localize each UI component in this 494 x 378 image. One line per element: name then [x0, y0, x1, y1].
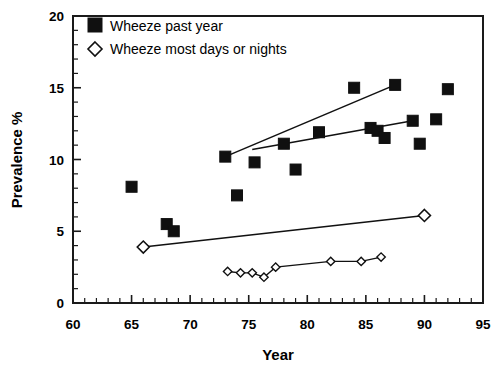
- data-point-square-3: [220, 151, 231, 162]
- x-tick-label-70: 70: [183, 317, 198, 332]
- chart-legend: Wheeze past year Wheeze most days or nig…: [88, 18, 287, 57]
- scatter-plot-svg: 606570758085909505101520 Wheeze past yea…: [0, 0, 494, 378]
- x-tick-label-80: 80: [300, 317, 315, 332]
- y-tick-label-10: 10: [49, 153, 64, 168]
- data-point-diamond-small-2: [248, 269, 256, 277]
- data-point-square-7: [290, 164, 301, 175]
- y-axis-label: Prevalence %: [8, 112, 25, 209]
- data-point-diamond-small-5: [327, 257, 335, 265]
- x-tick-label-95: 95: [475, 317, 491, 332]
- data-point-square-12: [379, 132, 390, 143]
- data-point-diamond-small-1: [236, 269, 244, 277]
- y-tick-label-5: 5: [56, 224, 64, 239]
- data-point-square-4: [232, 190, 243, 201]
- minor-tick-group: [73, 30, 471, 303]
- x-axis-label: Year: [262, 346, 294, 363]
- plot-frame: [73, 16, 483, 303]
- data-point-square-8: [314, 127, 325, 138]
- y-tick-label-15: 15: [49, 81, 65, 96]
- tick-label-group: 606570758085909505101520: [49, 9, 491, 332]
- x-tick-label-85: 85: [358, 317, 374, 332]
- data-point-square-2: [168, 226, 179, 237]
- data-point-square-14: [407, 115, 418, 126]
- data-point-diamond-small-0: [223, 267, 231, 275]
- data-point-square-15: [414, 138, 425, 149]
- x-tick-label-90: 90: [417, 317, 432, 332]
- y-tick-label-20: 20: [49, 9, 64, 24]
- chart-figure: 606570758085909505101520 Wheeze past yea…: [0, 0, 494, 378]
- data-point-square-6: [278, 138, 289, 149]
- data-point-square-13: [390, 79, 401, 90]
- y-tick-label-0: 0: [56, 296, 64, 311]
- legend-marker-filled-square: [88, 18, 102, 32]
- data-point-diamond-0: [137, 241, 149, 253]
- legend-label-0: Wheeze past year: [110, 18, 223, 34]
- data-point-square-16: [431, 114, 442, 125]
- legend-label-1: Wheeze most days or nights: [110, 41, 287, 57]
- square-marker-group: [126, 79, 453, 236]
- data-point-diamond-1: [418, 209, 430, 221]
- x-tick-label-65: 65: [124, 317, 140, 332]
- data-point-square-9: [349, 82, 360, 93]
- data-point-square-5: [249, 157, 260, 168]
- data-point-diamond-small-7: [377, 253, 385, 261]
- data-point-square-17: [442, 84, 453, 95]
- trendline-group: [143, 85, 424, 247]
- x-tick-label-75: 75: [241, 317, 257, 332]
- x-tick-label-60: 60: [65, 317, 80, 332]
- data-point-diamond-small-6: [357, 257, 365, 265]
- data-point-square-0: [126, 181, 137, 192]
- major-tick-group: [73, 16, 483, 303]
- trendline-diamond-trend: [143, 215, 424, 247]
- legend-marker-open-diamond: [88, 42, 102, 56]
- trendline-upper-square-trend: [225, 85, 395, 157]
